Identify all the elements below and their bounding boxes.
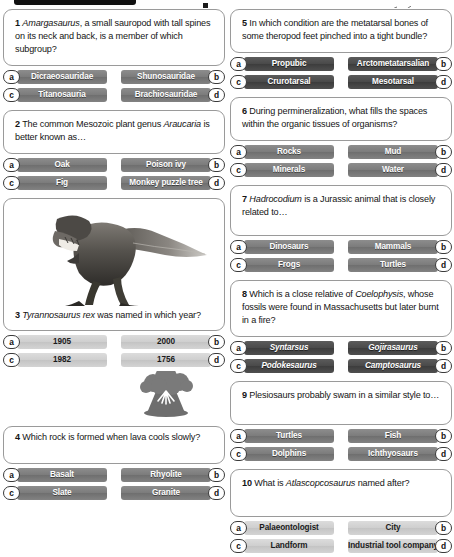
answer-group-6: aRocksMudbcMineralsWaterd: [230, 144, 452, 178]
answer-option-9a[interactable]: Turtles: [244, 429, 334, 443]
answer-option-10a[interactable]: Palaeontologist: [244, 521, 334, 535]
answer-badge-d: d: [435, 539, 452, 553]
answer-option-7c[interactable]: Frogs: [244, 258, 334, 272]
answer-badge-c: c: [3, 486, 20, 500]
answer-badge-a: a: [230, 57, 247, 71]
answer-option-7b[interactable]: Mammals: [348, 240, 438, 254]
answer-option-9c[interactable]: Dolphins: [244, 447, 334, 461]
question-text-5: 5 In which condition are the metatarsal …: [242, 17, 442, 43]
answer-badge-c: c: [230, 75, 247, 89]
answer-badge-c: c: [230, 163, 247, 177]
square-dot-icon: [203, 3, 208, 8]
answer-badge-b: b: [435, 521, 452, 535]
answer-badge-a: a: [3, 158, 20, 172]
question-text-8: 8 Which is a close relative of Coelophys…: [242, 288, 442, 327]
question-number: 5: [242, 18, 247, 28]
answer-badge-a: a: [3, 335, 20, 349]
question-card-7: 7 Hadrocodium is a Jurassic animal that …: [230, 185, 452, 237]
answer-option-3a[interactable]: 1905: [17, 335, 107, 349]
answer-badge-b: b: [435, 429, 452, 443]
quiz-column-right: 5 In which condition are the metatarsal …: [230, 9, 452, 557]
answer-row: a19052000b: [3, 334, 225, 350]
answer-badge-b: b: [435, 145, 452, 159]
answer-option-2c[interactable]: Fig: [17, 176, 107, 190]
question-number: 4: [15, 432, 20, 442]
answer-badge-a: a: [230, 145, 247, 159]
erupting-volcano-illustration-svg: [123, 371, 209, 429]
answer-group-2: aOakPoison ivybcFigMonkey puzzle treed: [3, 157, 225, 191]
answer-badge-d: d: [435, 359, 452, 373]
answer-option-8d[interactable]: Camptosaurus: [348, 359, 438, 373]
answer-badge-b: b: [435, 240, 452, 254]
answer-group-5: aPropubicArctometatarsalianbcCrurotarsal…: [230, 56, 452, 90]
question-text-6: 6 During permineralization, what fills t…: [242, 105, 442, 131]
answer-option-10c[interactable]: Landform: [244, 539, 334, 553]
answer-option-2d[interactable]: Monkey puzzle tree: [121, 176, 211, 190]
answer-row: aPalaeontologistCityb: [230, 520, 452, 536]
answer-option-7d[interactable]: Turtles: [348, 258, 438, 272]
answer-badge-a: a: [230, 429, 247, 443]
answer-option-10b[interactable]: City: [348, 521, 438, 535]
volcano-block: 4 Which rock is formed when lava cools s…: [3, 426, 225, 464]
page-header-strip: [0, 0, 454, 9]
answer-row: aDinosaursMammalsb: [230, 239, 452, 255]
question-number: 6: [242, 106, 247, 116]
answer-group-8: aSyntarsusGojirasaurusbcPodokesaurusCamp…: [230, 340, 452, 374]
answer-badge-d: d: [435, 75, 452, 89]
answer-option-1b[interactable]: Shunosauridae: [121, 70, 211, 84]
answer-badge-b: b: [208, 158, 225, 172]
question-number: 8: [242, 289, 247, 299]
answer-option-5b[interactable]: Arctometatarsalian: [348, 57, 438, 71]
quiz-column-left: 1 Amargasaurus, a small sauropod with ta…: [3, 9, 225, 508]
answer-badge-a: a: [230, 341, 247, 355]
answer-option-1a[interactable]: Dicraeosauridae: [17, 70, 107, 84]
answer-badge-d: d: [435, 447, 452, 461]
answer-row: cMineralsWaterd: [230, 162, 452, 178]
answer-option-5d[interactable]: Mesotarsal: [348, 75, 438, 89]
answer-option-6b[interactable]: Mud: [348, 145, 438, 159]
answer-option-3d[interactable]: 1756: [121, 353, 211, 367]
answer-badge-c: c: [3, 88, 20, 102]
answer-option-5c[interactable]: Crurotarsal: [244, 75, 334, 89]
answer-row: aRocksMudb: [230, 144, 452, 160]
answer-group-4: aBasaltRhyolitebcSlateGranited: [3, 467, 225, 501]
answer-option-1d[interactable]: Brachiosauridae: [121, 88, 211, 102]
answer-option-8c[interactable]: Podokesaurus: [244, 359, 334, 373]
answer-option-4b[interactable]: Rhyolite: [121, 468, 211, 482]
answer-option-10d[interactable]: Industrial tool company: [348, 539, 438, 553]
answer-option-4d[interactable]: Granite: [121, 486, 211, 500]
answer-option-6a[interactable]: Rocks: [244, 145, 334, 159]
answer-option-9b[interactable]: Fish: [348, 429, 438, 443]
answer-row: cDolphinsIchthyosaursd: [230, 446, 452, 462]
answer-option-8a[interactable]: Syntarsus: [244, 341, 334, 355]
question-card-10: 10 What is Atlascopcosaurus named after?: [230, 469, 452, 517]
question-text-7: 7 Hadrocodium is a Jurassic animal that …: [242, 193, 442, 219]
answer-option-3b[interactable]: 2000: [121, 335, 211, 349]
answer-option-2b[interactable]: Poison ivy: [121, 158, 211, 172]
answer-badge-b: b: [208, 468, 225, 482]
answer-option-4a[interactable]: Basalt: [17, 468, 107, 482]
answer-row: cSlateGranited: [3, 485, 225, 501]
answer-badge-d: d: [208, 353, 225, 367]
question-card-3: 3 Tyrannosaurus rex was named in which y…: [3, 198, 225, 332]
answer-badge-c: c: [230, 447, 247, 461]
answer-option-4c[interactable]: Slate: [17, 486, 107, 500]
answer-option-1c[interactable]: Titanosauria: [17, 88, 107, 102]
question-card-4: 4 Which rock is formed when lava cools s…: [3, 426, 225, 464]
answer-option-6d[interactable]: Water: [348, 163, 438, 177]
answer-row: aTurtlesFishb: [230, 428, 452, 444]
answer-option-7a[interactable]: Dinosaurs: [244, 240, 334, 254]
answer-badge-d: d: [208, 88, 225, 102]
answer-row: aBasaltRhyoliteb: [3, 467, 225, 483]
question-card-1: 1 Amargasaurus, a small sauropod with ta…: [3, 9, 225, 66]
answer-option-8b[interactable]: Gojirasaurus: [348, 341, 438, 355]
answer-option-3c[interactable]: 1982: [17, 353, 107, 367]
answer-option-2a[interactable]: Oak: [17, 158, 107, 172]
answer-option-5a[interactable]: Propubic: [244, 57, 334, 71]
answer-option-6c[interactable]: Minerals: [244, 163, 334, 177]
answer-option-9d[interactable]: Ichthyosaurs: [348, 447, 438, 461]
answer-row: cLandformIndustrial tool companyd: [230, 538, 452, 554]
answer-badge-c: c: [3, 176, 20, 190]
answer-group-3: a19052000bc19821756d: [3, 334, 225, 368]
